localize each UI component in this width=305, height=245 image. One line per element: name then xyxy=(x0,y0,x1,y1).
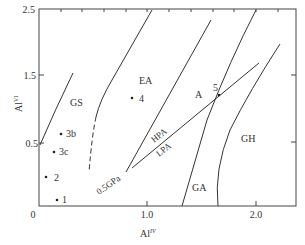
point-4 xyxy=(131,97,134,100)
region-gh: GH xyxy=(241,133,255,144)
y-tick-0-5: 0.5 xyxy=(26,138,39,149)
point-1 xyxy=(56,199,59,202)
right-ticks xyxy=(291,75,296,142)
ga-a-boundary-line xyxy=(182,10,256,206)
y-tick-2-5: 2.5 xyxy=(23,4,36,15)
point-2 xyxy=(45,176,48,179)
bottom-ticks xyxy=(147,201,256,206)
ea-dashed-extension xyxy=(89,117,96,172)
point-label-3c: 3c xyxy=(59,146,69,157)
region-ea: EA xyxy=(139,75,153,86)
label-0-5gpa: 0.5GPa xyxy=(94,173,122,197)
point-label-4: 4 xyxy=(139,93,144,104)
region-ga: GA xyxy=(192,182,207,193)
x-axis-label: AlIV xyxy=(140,228,157,239)
y-axis-label: AlVI xyxy=(13,96,24,112)
x-tick-0: 0 xyxy=(31,209,36,220)
y-tick-1-5: 1.5 xyxy=(24,70,37,81)
left-ticks xyxy=(39,75,44,143)
point-label-1: 1 xyxy=(62,194,67,205)
point-3b xyxy=(60,133,63,136)
x-tick-2-0: 2.0 xyxy=(250,209,263,220)
diagram-canvas: 2.5 1.5 0.5 0 1.0 2.0 AlIV AlVI 1 2 3c 3… xyxy=(0,0,305,245)
point-5 xyxy=(218,94,221,97)
x-tick-1-0: 1.0 xyxy=(141,209,154,220)
region-a: A xyxy=(195,89,203,100)
region-gs: GS xyxy=(70,97,83,108)
point-label-5: 5 xyxy=(213,82,218,93)
point-label-3b: 3b xyxy=(66,128,76,139)
point-3c xyxy=(53,151,56,154)
gh-boundary-curve xyxy=(217,44,280,206)
point-label-2: 2 xyxy=(54,172,59,183)
